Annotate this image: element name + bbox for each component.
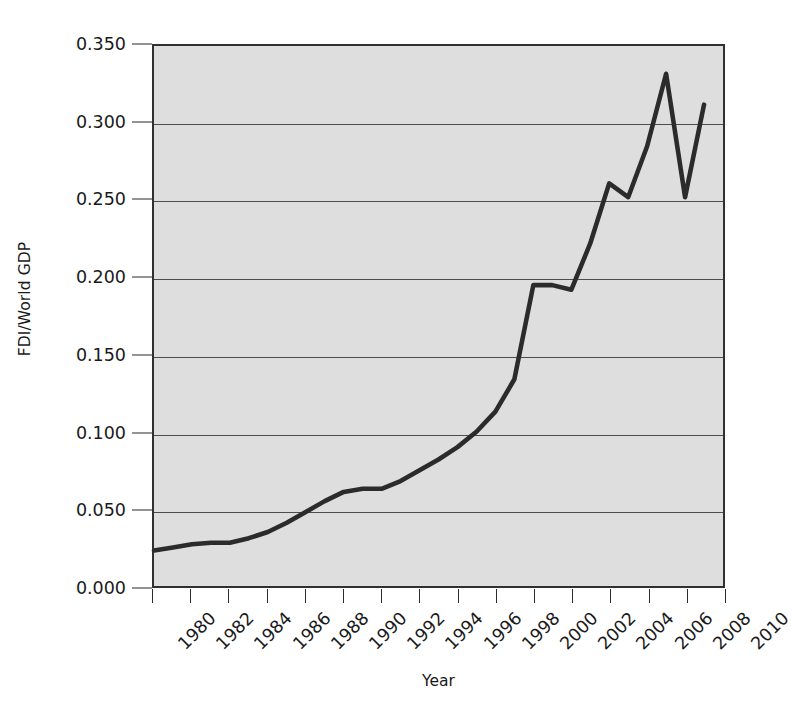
x-tick-mark: [534, 589, 535, 603]
y-tick-mark: [132, 588, 152, 589]
x-tick-mark: [190, 589, 191, 603]
x-tick-label: 2000: [556, 608, 602, 654]
x-tick-mark: [228, 589, 229, 603]
x-tick-mark: [610, 589, 611, 603]
series-line-svg: [154, 46, 723, 586]
y-tick-label: 0.250: [76, 189, 126, 209]
y-tick-mark: [132, 277, 152, 278]
y-axis-ticks: 0.0000.0500.1000.1500.2000.2500.3000.350: [0, 0, 152, 722]
x-tick-mark: [267, 589, 268, 603]
y-tick-label: 0.100: [76, 423, 126, 443]
series-line-fdi-world-gdp: [154, 74, 704, 551]
x-tick-mark: [572, 589, 573, 603]
x-axis-title: Year: [152, 672, 725, 690]
x-tick-mark: [725, 589, 726, 603]
x-tick-mark: [458, 589, 459, 603]
y-tick-label: 0.050: [76, 500, 126, 520]
x-tick-mark: [381, 589, 382, 603]
x-tick-label: 1994: [441, 608, 487, 654]
x-tick-label: 1988: [327, 608, 373, 654]
x-tick-label: 2008: [709, 608, 755, 654]
x-tick-label: 2004: [632, 608, 678, 654]
x-tick-mark: [343, 589, 344, 603]
x-tick-label: 1982: [212, 608, 258, 654]
x-tick-label: 2006: [671, 608, 717, 654]
x-tick-label: 2010: [747, 608, 792, 654]
x-tick-label: 1984: [250, 608, 296, 654]
y-tick-mark: [132, 199, 152, 200]
plot-area: [152, 44, 725, 588]
y-tick-label: 0.350: [76, 34, 126, 54]
y-tick-mark: [132, 121, 152, 122]
y-tick-mark: [132, 354, 152, 355]
y-tick-mark: [132, 510, 152, 511]
x-tick-mark: [305, 589, 306, 603]
x-tick-label: 2002: [594, 608, 640, 654]
x-tick-mark: [649, 589, 650, 603]
y-tick-label: 0.200: [76, 267, 126, 287]
x-tick-label: 1980: [174, 608, 220, 654]
y-tick-label: 0.300: [76, 112, 126, 132]
x-tick-mark: [419, 589, 420, 603]
x-tick-label: 1998: [518, 608, 564, 654]
y-tick-label: 0.150: [76, 345, 126, 365]
x-tick-label: 1992: [403, 608, 449, 654]
x-tick-label: 1990: [365, 608, 411, 654]
x-tick-label: 1996: [480, 608, 526, 654]
x-axis-ticks: 1980198219841986198819901992199419961998…: [152, 588, 725, 722]
x-tick-mark: [687, 589, 688, 603]
x-tick-mark: [152, 589, 153, 603]
x-tick-mark: [496, 589, 497, 603]
y-tick-mark: [132, 432, 152, 433]
y-tick-label: 0.000: [76, 578, 126, 598]
y-tick-mark: [132, 44, 152, 45]
x-tick-label: 1986: [289, 608, 335, 654]
